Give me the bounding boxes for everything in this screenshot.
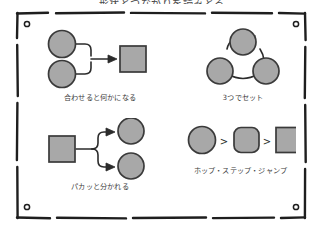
caption-sequence: ホップ・ステップ・ジャンプ xyxy=(178,167,303,175)
caption-split: パカッと分かれる xyxy=(36,183,164,191)
split-output-circle-1 xyxy=(118,118,144,144)
quadrant-sequence: > > ホップ・ステップ・ジャンプ xyxy=(178,118,303,175)
triad-diagram xyxy=(183,27,303,91)
diagram-panel: 合わせると何かになる 3つでセット xyxy=(18,13,305,218)
split-arrowhead-upper xyxy=(106,128,115,136)
sequence-separator-2: > xyxy=(262,136,270,147)
merge-path-lower xyxy=(75,62,91,74)
triad-node-bottom-left xyxy=(207,58,233,84)
page-root: 形状とつながりを読みとる xyxy=(0,0,323,231)
triad-node-bottom-right xyxy=(253,58,279,84)
caption-merge: 合わせると何かになる xyxy=(36,94,164,102)
merge-diagram-svg xyxy=(44,27,156,91)
sequence-separator-1: > xyxy=(219,136,227,147)
merge-input-circle-1 xyxy=(49,31,76,58)
caption-triad: 3つでセット xyxy=(183,94,303,102)
merge-diagram xyxy=(36,27,164,91)
sequence-diagram-svg: > > xyxy=(186,118,296,162)
quadrant-merge: 合わせると何かになる xyxy=(36,27,164,102)
merge-arrowhead xyxy=(108,55,117,63)
split-diagram-svg xyxy=(44,118,156,180)
triad-node-top xyxy=(230,29,256,55)
split-diagram xyxy=(36,118,164,180)
sequence-step-circle xyxy=(188,127,215,154)
quadrant-split: パカッと分かれる xyxy=(36,118,164,191)
sequence-diagram: > > xyxy=(178,118,303,162)
merge-path-upper xyxy=(75,44,91,56)
sequence-step-rounded-square xyxy=(234,128,259,153)
triad-diagram-svg xyxy=(203,27,283,91)
split-input-square xyxy=(49,136,75,162)
split-arrowhead-lower xyxy=(106,163,115,171)
merge-output-square xyxy=(120,46,146,72)
split-output-circle-2 xyxy=(118,153,144,179)
sequence-step-square xyxy=(276,128,296,153)
merge-input-circle-2 xyxy=(49,61,76,88)
quadrant-triad: 3つでセット xyxy=(183,27,303,102)
